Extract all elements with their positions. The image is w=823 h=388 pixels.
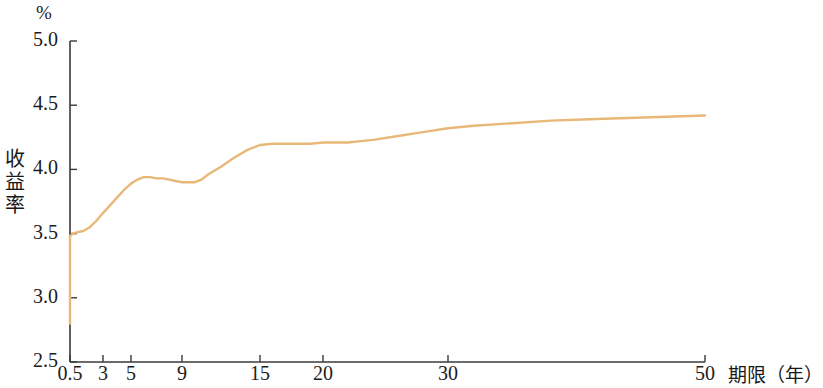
- tick-marks: [70, 41, 705, 362]
- series-line: [70, 115, 705, 323]
- yield-curve-chart: % 收 益 率 期限（年） 5.04.54.03.53.02.5 0.53591…: [0, 0, 823, 388]
- series-layer: [70, 115, 705, 323]
- axis-lines: [70, 41, 705, 362]
- plot-area: [0, 0, 823, 388]
